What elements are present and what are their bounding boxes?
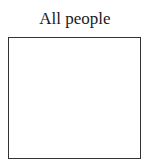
population-box xyxy=(8,37,141,159)
diagram-title: All people xyxy=(0,9,150,29)
